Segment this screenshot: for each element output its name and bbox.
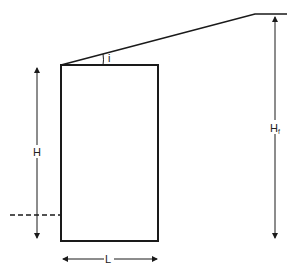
base-width-label: L bbox=[105, 253, 111, 265]
backfill-slope-line bbox=[61, 14, 287, 65]
slope-angle-arc bbox=[103, 54, 104, 65]
slope-angle-label: i bbox=[108, 52, 110, 64]
total-height-label: Hf bbox=[270, 122, 280, 135]
diagram-canvas: i H Hf L bbox=[0, 0, 294, 274]
wall-height-label: H bbox=[33, 146, 41, 158]
wall-rectangle bbox=[61, 65, 158, 241]
